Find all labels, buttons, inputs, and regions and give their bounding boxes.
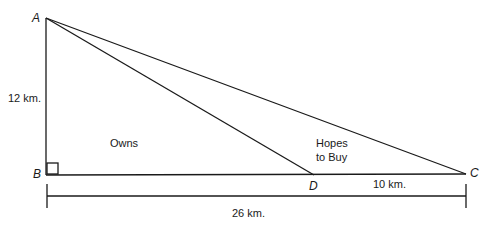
point-a-label: A: [32, 12, 40, 25]
point-d-label: D: [309, 180, 318, 193]
region-hopes-label-line1: Hopes: [316, 137, 348, 150]
right-angle-marker: [47, 163, 58, 174]
region-hopes-label-line2: to Buy: [316, 151, 347, 164]
point-b-label: B: [33, 168, 41, 181]
segment-ac: [46, 18, 466, 174]
point-c-label: C: [470, 167, 479, 180]
dc-length-label: 10 km.: [373, 178, 406, 191]
bc-length-label: 26 km.: [232, 207, 265, 220]
segment-ad: [46, 18, 314, 175]
segment-bc: [46, 174, 466, 175]
triangle-diagram: [0, 0, 484, 232]
region-owns-label: Owns: [110, 137, 138, 150]
ab-length-label: 12 km.: [8, 92, 41, 105]
